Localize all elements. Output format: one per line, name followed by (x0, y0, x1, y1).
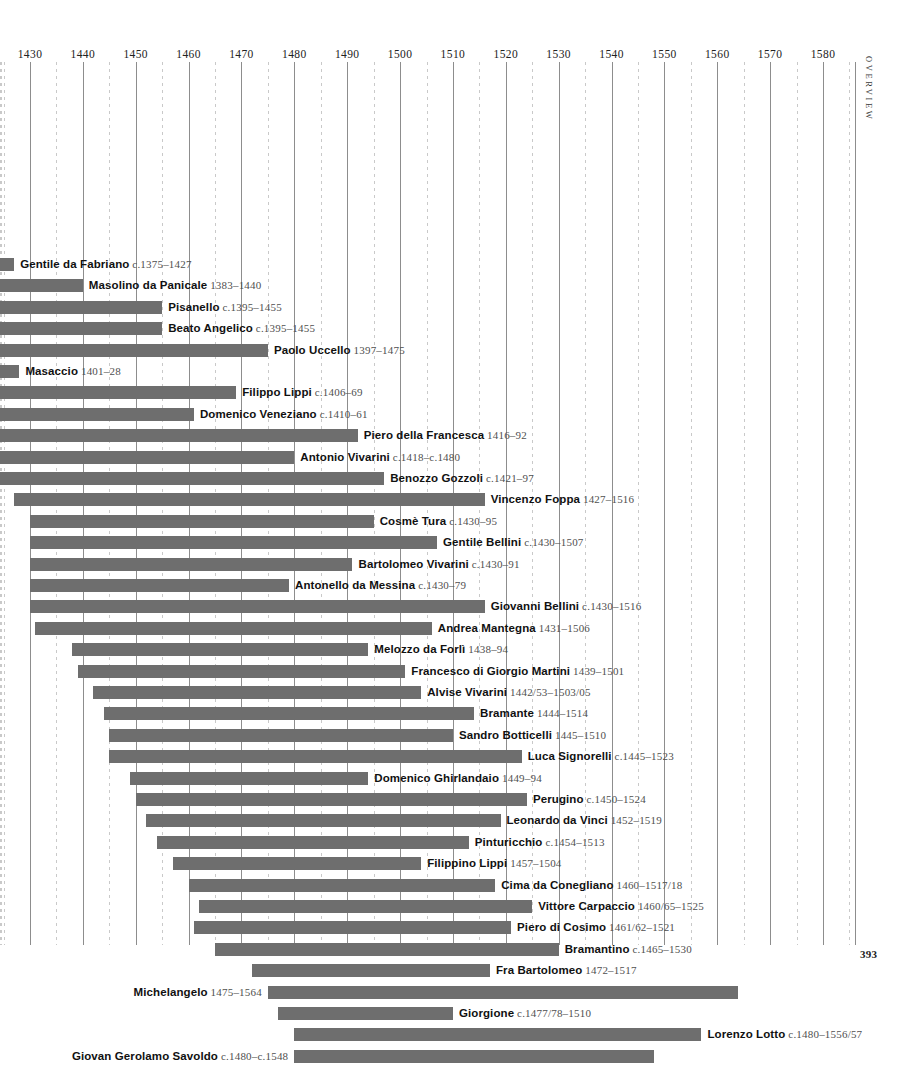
lifespan-bar[interactable] (30, 558, 352, 571)
lifespan-bar[interactable] (0, 386, 236, 399)
lifespan-bar[interactable] (146, 814, 500, 827)
timeline-row[interactable]: Antonio Vivarini c.1418–c.1480 (0, 448, 909, 469)
timeline-row[interactable]: Bramante 1444–1514 (0, 704, 909, 725)
timeline-row[interactable]: Domenico Ghirlandaio 1449–94 (0, 769, 909, 790)
lifespan-bar[interactable] (93, 686, 421, 699)
artist-dates: c.1450–1524 (584, 793, 646, 805)
timeline-row[interactable]: Lorenzo Lotto c.1480–1556/57 (0, 1025, 909, 1046)
lifespan-bar[interactable] (109, 729, 453, 742)
timeline-row[interactable]: Giorgione c.1477/78–1510 (0, 1004, 909, 1025)
timeline-row[interactable]: Paolo Uccello 1397–1475 (0, 341, 909, 362)
lifespan-bar[interactable] (189, 879, 496, 892)
lifespan-bar[interactable] (294, 1050, 653, 1063)
timeline-row[interactable]: Piero di Cosimo 1461/62–1521 (0, 918, 909, 939)
lifespan-bar[interactable] (0, 429, 358, 442)
artist-name: Bramantino (565, 943, 630, 955)
lifespan-bar[interactable] (0, 301, 162, 314)
artist-dates: 1445–1510 (552, 729, 606, 741)
timeline-row[interactable]: Perugino c.1450–1524 (0, 790, 909, 811)
artist-label: Pisanello c.1395–1455 (162, 299, 282, 316)
lifespan-bar[interactable] (104, 707, 474, 720)
timeline-row[interactable]: Filippo Lippi c.1406–69 (0, 383, 909, 404)
timeline-row[interactable]: Pisanello c.1395–1455 (0, 298, 909, 319)
axis-tick-1510: 1510 (441, 48, 466, 60)
lifespan-bar[interactable] (130, 772, 368, 785)
timeline-row[interactable]: Andrea Mantegna 1431–1506 (0, 619, 909, 640)
timeline-row[interactable]: Luca Signorelli c.1445–1523 (0, 747, 909, 768)
lifespan-bar[interactable] (194, 921, 511, 934)
timeline-row[interactable]: Cima da Conegliano 1460–1517/18 (0, 876, 909, 897)
lifespan-bar[interactable] (30, 515, 374, 528)
timeline-rows: Gentile da Fabriano c.1375–1427Masolino … (0, 62, 909, 945)
timeline-row[interactable]: Bramantino c.1465–1530 (0, 940, 909, 961)
lifespan-bar[interactable] (72, 643, 368, 656)
lifespan-bar[interactable] (173, 857, 421, 870)
lifespan-bar[interactable] (278, 1007, 452, 1020)
artist-name: Vincenzo Foppa (491, 493, 580, 505)
lifespan-bar[interactable] (30, 579, 289, 592)
artist-dates: 1460–1517/18 (614, 879, 683, 891)
timeline-row[interactable]: Melozzo da Forlì 1438–94 (0, 640, 909, 661)
lifespan-bar[interactable] (252, 964, 490, 977)
artist-dates: 1401–28 (78, 365, 121, 377)
timeline-row[interactable]: Francesco di Giorgio Martini 1439–1501 (0, 662, 909, 683)
timeline-row[interactable]: Pinturicchio c.1454–1513 (0, 833, 909, 854)
timeline-row[interactable]: Giovan Gerolamo Savoldo c.1480–c.1548 (0, 1047, 909, 1067)
timeline-row[interactable]: Vincenzo Foppa 1427–1516 (0, 490, 909, 511)
artist-name: Giorgione (459, 1007, 514, 1019)
timeline-row[interactable]: Filippino Lippi 1457–1504 (0, 854, 909, 875)
lifespan-bar[interactable] (157, 836, 469, 849)
lifespan-bar[interactable] (136, 793, 527, 806)
lifespan-bar[interactable] (0, 344, 268, 357)
artist-dates: 1457–1504 (507, 857, 561, 869)
lifespan-bar[interactable] (0, 451, 294, 464)
artist-name: Andrea Mantegna (438, 622, 536, 634)
lifespan-bar[interactable] (0, 322, 162, 335)
artist-label: Piero della Francesca 1416–92 (358, 427, 527, 444)
lifespan-bar[interactable] (0, 408, 194, 421)
lifespan-bar[interactable] (199, 900, 532, 913)
lifespan-bar[interactable] (0, 365, 19, 378)
lifespan-bar[interactable] (294, 1028, 701, 1041)
axis-tick-1570: 1570 (758, 48, 783, 60)
artist-label: Paolo Uccello 1397–1475 (268, 342, 405, 359)
timeline-row[interactable]: Giovanni Bellini c.1430–1516 (0, 597, 909, 618)
lifespan-bar[interactable] (30, 600, 485, 613)
timeline-row[interactable]: Gentile da Fabriano c.1375–1427 (0, 255, 909, 276)
timeline-row[interactable]: Antonello da Messina c.1430–79 (0, 576, 909, 597)
timeline-row[interactable]: Piero della Francesca 1416–92 (0, 426, 909, 447)
lifespan-bar[interactable] (109, 750, 521, 763)
artist-label: Filippino Lippi 1457–1504 (421, 855, 561, 872)
artist-label: Gentile Bellini c.1430–1507 (437, 534, 583, 551)
timeline-row[interactable]: Gentile Bellini c.1430–1507 (0, 533, 909, 554)
timeline-row[interactable]: Cosmè Tura c.1430–95 (0, 512, 909, 533)
lifespan-bar[interactable] (0, 472, 384, 485)
timeline-row[interactable]: Leonardo da Vinci 1452–1519 (0, 811, 909, 832)
artist-label: Pinturicchio c.1454–1513 (469, 834, 605, 851)
timeline-row[interactable]: Benozzo Gozzoli c.1421–97 (0, 469, 909, 490)
lifespan-bar[interactable] (268, 986, 739, 999)
lifespan-bar[interactable] (14, 493, 485, 506)
artist-dates: 1442/53–1503/05 (507, 686, 591, 698)
lifespan-bar[interactable] (0, 258, 14, 271)
timeline-row[interactable]: Alvise Vivarini 1442/53–1503/05 (0, 683, 909, 704)
timeline-row[interactable]: Bartolomeo Vivarini c.1430–91 (0, 555, 909, 576)
timeline-row[interactable]: Masolino da Panicale 1383–1440 (0, 276, 909, 297)
artist-dates: 1460/65–1525 (635, 900, 704, 912)
timeline-row[interactable]: Michelangelo 1475–1564 (0, 983, 909, 1004)
timeline-row[interactable]: Fra Bartolomeo 1472–1517 (0, 961, 909, 982)
lifespan-bar[interactable] (0, 279, 83, 292)
artist-name: Michelangelo (134, 986, 208, 998)
axis-tick-1580: 1580 (811, 48, 836, 60)
lifespan-bar[interactable] (78, 665, 406, 678)
timeline-row[interactable]: Sandro Botticelli 1445–1510 (0, 726, 909, 747)
lifespan-bar[interactable] (30, 536, 437, 549)
timeline-row[interactable]: Domenico Veneziano c.1410–61 (0, 405, 909, 426)
artist-dates: c.1395–1455 (220, 301, 282, 313)
lifespan-bar[interactable] (215, 943, 559, 956)
timeline-row[interactable]: Beato Angelico c.1395–1455 (0, 319, 909, 340)
lifespan-bar[interactable] (35, 622, 432, 635)
timeline-row[interactable]: Masaccio 1401–28 (0, 362, 909, 383)
artist-name: Beato Angelico (168, 322, 253, 334)
timeline-row[interactable]: Vittore Carpaccio 1460/65–1525 (0, 897, 909, 918)
